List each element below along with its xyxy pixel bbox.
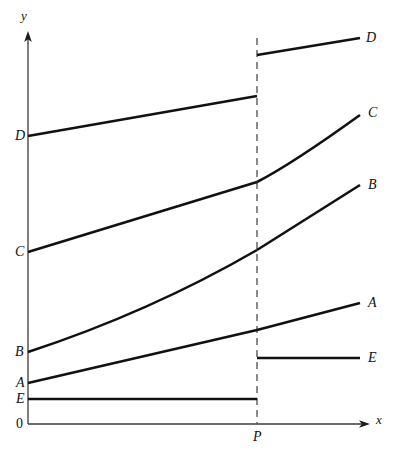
x-axis-label: x: [376, 413, 382, 426]
series-a-segment-after-p: [257, 303, 360, 330]
right-label-c: C: [368, 106, 377, 120]
series-c-segment-after-p: [257, 115, 360, 182]
left-label-e: E: [16, 392, 25, 406]
series-b-segment-after-p: [257, 185, 360, 250]
chart-figure: y x 0 D C B A E D C B A E P: [0, 0, 399, 452]
left-label-d: D: [15, 129, 25, 143]
right-label-d: D: [366, 31, 376, 45]
left-label-c: C: [15, 245, 24, 259]
right-label-a: A: [368, 296, 377, 310]
chart-plot-area: [0, 0, 399, 452]
origin-label: 0: [16, 417, 23, 431]
left-label-a: A: [16, 376, 25, 390]
series-d-segment-after-p: [257, 38, 360, 55]
series-d-segment-before-p: [28, 96, 257, 136]
y-axis-label: y: [21, 9, 27, 22]
series-a-segment-before-p: [28, 330, 257, 383]
right-label-b: B: [368, 178, 377, 192]
left-label-b: B: [15, 345, 24, 359]
point-p-label: P: [253, 430, 262, 444]
series-c-segment-before-p: [28, 182, 257, 252]
right-label-e: E: [368, 351, 377, 365]
